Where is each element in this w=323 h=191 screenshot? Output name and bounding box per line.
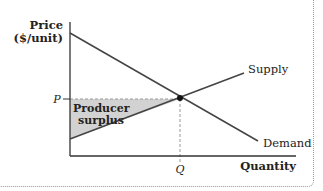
equilibrium-point: [177, 95, 183, 101]
demand-label: Demand: [263, 136, 312, 150]
x-axis-label: Quantity: [240, 159, 296, 173]
y-axis-unit-label: ($/unit): [14, 31, 64, 45]
producer-surplus-label-line2: surplus: [78, 114, 124, 127]
price-tick-label: P: [52, 93, 61, 106]
supply-label: Supply: [248, 62, 289, 76]
y-axis-label: Price: [30, 18, 63, 32]
quantity-tick-label: Q: [175, 163, 184, 176]
supply-demand-diagram: Price ($/unit) P Q Quantity Supply Deman…: [0, 0, 323, 191]
